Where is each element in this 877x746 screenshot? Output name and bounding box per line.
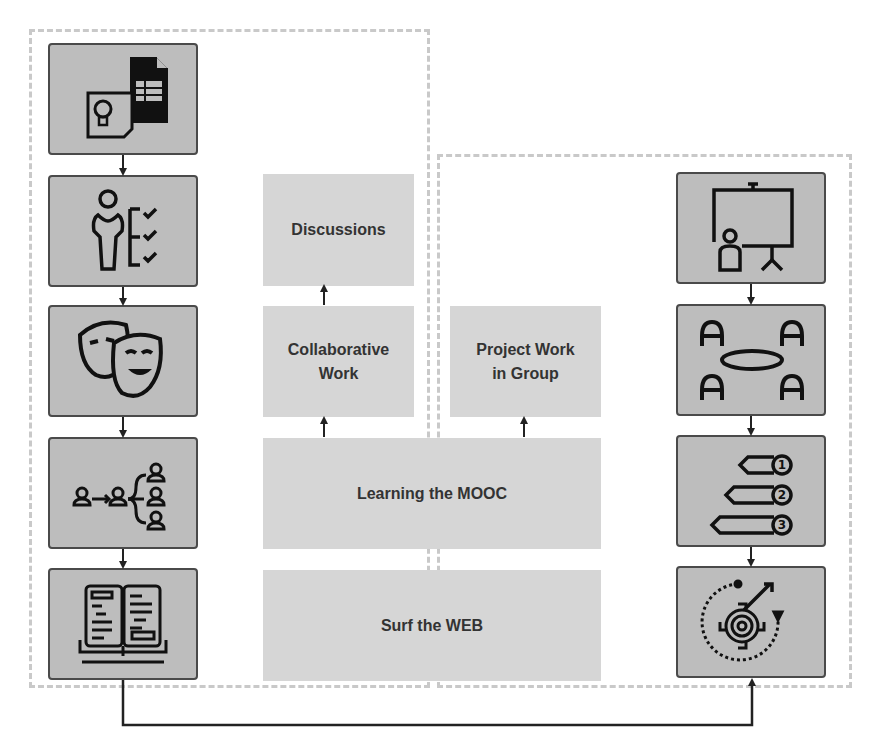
open-book-icon: [68, 576, 178, 672]
icon-box-theater-masks: [48, 305, 198, 417]
presentation-board-icon: [696, 180, 806, 276]
collaborative-work-box: Collaborative Work: [263, 306, 414, 417]
project-work-box: Project Work in Group: [450, 306, 601, 417]
discussions-box: Discussions: [263, 174, 414, 286]
project-work-label: Project Work in Group: [476, 338, 574, 384]
theater-masks-icon: [68, 313, 178, 409]
icon-box-open-book: [48, 568, 198, 680]
collaborative-work-label: Collaborative Work: [288, 338, 389, 384]
surf-web-label: Surf the WEB: [381, 614, 483, 637]
icon-box-idea-document: [48, 43, 198, 155]
icon-box-group-meeting: [676, 304, 826, 416]
icon-box-knowledge-sharing: [48, 437, 198, 549]
icon-box-person-checklist: [48, 175, 198, 287]
learning-mooc-box: Learning the MOOC: [263, 438, 601, 549]
icon-box-gear-process: [676, 566, 826, 678]
surf-web-box: Surf the WEB: [263, 570, 601, 681]
knowledge-sharing-network-icon: [68, 445, 178, 541]
svg-text:3: 3: [778, 518, 786, 532]
gear-process-cycle-icon: [696, 574, 806, 670]
svg-text:2: 2: [778, 488, 786, 502]
discussions-label: Discussions: [291, 218, 385, 241]
idea-document-icon: [68, 51, 178, 147]
group-meeting-table-icon: [696, 312, 806, 408]
icon-box-presentation: [676, 172, 826, 284]
learning-mooc-label: Learning the MOOC: [357, 482, 507, 505]
numbered-steps-icon: 123: [696, 443, 806, 539]
person-checklist-icon: [68, 183, 178, 279]
svg-text:1: 1: [778, 458, 786, 472]
icon-box-numbered-steps: 123: [676, 435, 826, 547]
